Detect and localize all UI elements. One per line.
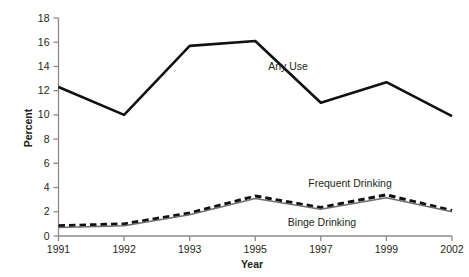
y-axis-tick-label: 12 [38,84,50,96]
y-axis-tick-label: 6 [44,157,50,169]
y-axis-tick-label: 2 [44,205,50,217]
x-axis-tick-label: 1992 [112,243,136,255]
x-axis-tick-label: 1999 [375,243,399,255]
x-axis-tick-label: 1997 [309,243,333,255]
x-axis-tick-label: 2002 [440,243,464,255]
y-axis-tick-label: 0 [44,230,50,242]
y-axis-tick-label: 14 [38,60,50,72]
series-label-frequent-drinking: Frequent Drinking [308,177,392,189]
y-axis-tick-label: 10 [38,108,50,120]
series-label-binge-drinking: Binge Drinking [288,216,356,228]
y-axis-tick-label: 8 [44,133,50,145]
y-axis-tick-label: 18 [38,12,50,24]
y-axis-tick-label: 4 [44,181,50,193]
y-axis-title: Percent [22,108,34,147]
x-axis-tick-label: 1993 [178,243,202,255]
y-axis-tick-label: 16 [38,36,50,48]
series-label-any-use: Any Use [268,60,308,72]
x-axis-tick-label: 1991 [47,243,71,255]
x-axis-tick-label: 1995 [244,243,268,255]
chart-container: 024681012141618 199119921993199519971999… [0,0,469,277]
line-chart: 024681012141618 199119921993199519971999… [0,0,469,277]
x-axis-title: Year [241,258,263,270]
